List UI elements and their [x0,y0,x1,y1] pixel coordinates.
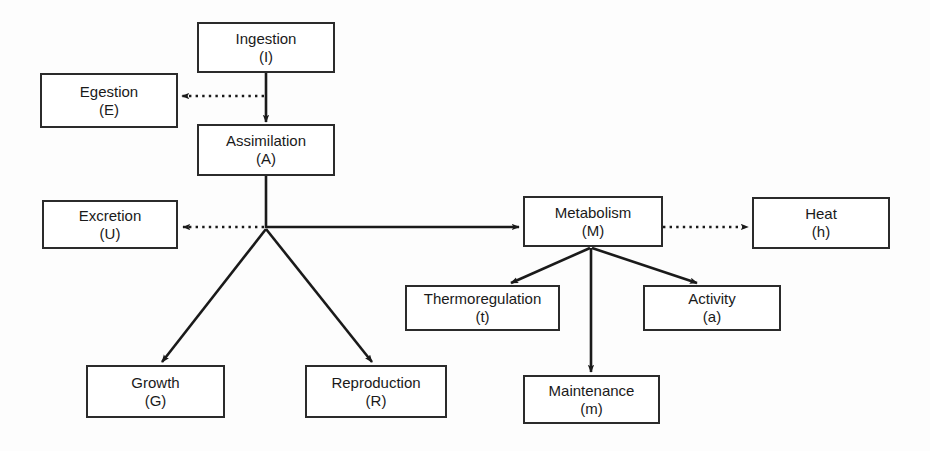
node-metabolism-title: Metabolism [555,204,632,222]
node-metabolism[interactable]: Metabolism (M) [523,196,663,247]
node-egestion-title: Egestion [80,83,138,101]
node-ingestion-symbol: (I) [259,48,273,66]
node-heat-symbol: (h) [812,223,830,241]
node-activity[interactable]: Activity (a) [643,285,781,331]
energy-budget-diagram: Ingestion (I) Egestion (E) Assimilation … [0,0,930,451]
node-assimilation-title: Assimilation [226,132,306,150]
node-heat-title: Heat [805,205,837,223]
node-ingestion-title: Ingestion [236,30,297,48]
node-reproduction-symbol: (R) [366,392,387,410]
node-reproduction-title: Reproduction [331,374,420,392]
node-maintenance-symbol: (m) [580,400,603,418]
node-growth-title: Growth [131,374,179,392]
node-reproduction[interactable]: Reproduction (R) [305,365,447,418]
node-assimilation-symbol: (A) [256,150,276,168]
edge-metabolism-to-activity [592,248,697,283]
node-activity-symbol: (a) [703,308,721,326]
node-growth-symbol: (G) [145,392,167,410]
node-growth[interactable]: Growth (G) [86,365,225,418]
edge-assimilation-to-reproduction [266,229,372,362]
node-ingestion[interactable]: Ingestion (I) [197,22,335,73]
node-maintenance[interactable]: Maintenance (m) [523,375,660,424]
edge-metabolism-to-thermoregulation [511,248,590,283]
node-thermoregulation[interactable]: Thermoregulation (t) [405,285,560,331]
node-excretion-symbol: (U) [100,225,121,243]
node-thermoregulation-title: Thermoregulation [424,290,542,308]
node-excretion[interactable]: Excretion (U) [42,200,178,249]
node-heat[interactable]: Heat (h) [752,197,890,249]
node-egestion[interactable]: Egestion (E) [40,73,178,128]
node-activity-title: Activity [688,290,736,308]
node-egestion-symbol: (E) [99,101,119,119]
node-thermoregulation-symbol: (t) [475,308,489,326]
node-maintenance-title: Maintenance [549,382,635,400]
node-metabolism-symbol: (M) [582,222,605,240]
node-excretion-title: Excretion [79,207,142,225]
node-assimilation[interactable]: Assimilation (A) [197,124,335,176]
